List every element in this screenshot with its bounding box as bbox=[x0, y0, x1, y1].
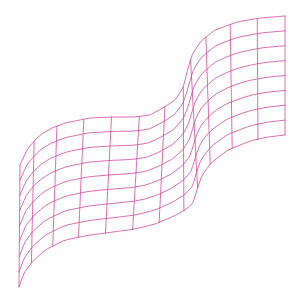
mesh-column-line bbox=[257, 19, 258, 140]
mesh-row-line bbox=[20, 61, 285, 211]
mesh-row-line bbox=[20, 31, 285, 180]
mesh-row-line bbox=[19, 90, 285, 241]
mesh-column-line bbox=[159, 107, 165, 223]
mesh-row-line bbox=[20, 46, 285, 196]
wireframe-mesh bbox=[19, 16, 285, 287]
mesh-column-line bbox=[31, 141, 34, 263]
mesh-column-line bbox=[206, 37, 210, 164]
surface-plot bbox=[0, 0, 300, 297]
mesh-column-line bbox=[53, 126, 57, 246]
mesh-row-line bbox=[20, 76, 286, 227]
mesh-column-line bbox=[183, 87, 184, 211]
